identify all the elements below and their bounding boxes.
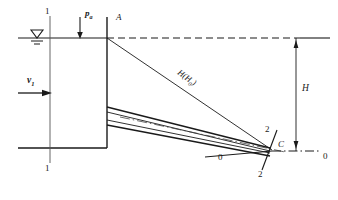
figure-canvas: 1 1 pa A v1 H(H0) 2 2 C 0 0 H — [0, 0, 338, 200]
nozzle-lower-wall-inner — [107, 120, 270, 153]
label-velocity-1: v1 — [27, 76, 34, 87]
label-section-1-bottom: 1 — [45, 164, 50, 173]
label-point-c: C — [278, 140, 284, 149]
label-section-2-bottom: 2 — [258, 170, 263, 179]
label-datum-right: 0 — [323, 152, 328, 161]
nozzle-centerline — [120, 117, 285, 152]
label-height-h: H — [302, 84, 309, 94]
velocity-arrow-head — [42, 90, 52, 96]
height-dimension-arrow-top — [294, 40, 299, 48]
label-section-1-top: 1 — [45, 7, 50, 16]
nozzle-lower-wall-outer — [107, 125, 270, 156]
label-datum-left: 0 — [218, 153, 223, 162]
label-atmospheric-pressure: pa — [85, 9, 93, 20]
hydraulics-diagram — [0, 0, 338, 200]
height-dimension-arrow-bottom — [294, 141, 299, 149]
water-level-triangle-icon — [31, 30, 43, 38]
nozzle-upper-wall-outer — [107, 107, 270, 148]
label-v1-subscript: 1 — [31, 80, 34, 87]
head-line-a-to-c — [107, 38, 272, 150]
label-point-a: A — [116, 13, 122, 22]
label-pa-subscript: a — [90, 14, 93, 20]
label-section-2-top: 2 — [265, 125, 270, 134]
